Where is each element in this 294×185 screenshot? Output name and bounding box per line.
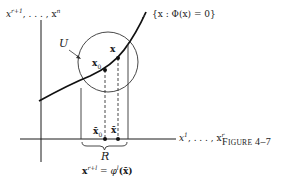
point-x-bar	[116, 137, 120, 141]
axis-ellipsis: , . . . , x	[188, 133, 222, 143]
proj-x0-label: x̄0	[93, 127, 102, 138]
diagram-canvas	[0, 0, 294, 185]
caption-number: 4–7	[255, 136, 271, 147]
neighborhood-label: U	[59, 38, 68, 49]
eq-phi: = φ	[97, 166, 117, 176]
point-x0-label: x0	[92, 59, 101, 70]
horizontal-axis-label: x1, . . . , xr	[179, 132, 224, 143]
point-x	[116, 56, 120, 60]
axis-ellipsis: , . . . , x	[23, 9, 57, 19]
vertical-axis-label: xr+1, . . . , xn	[6, 8, 60, 19]
figure-caption: Figure 4–7	[222, 137, 271, 147]
point-x0	[103, 68, 107, 72]
equation-label: xr+l = φl(x̄)	[82, 165, 133, 176]
point-x0-bar	[103, 137, 107, 141]
surface-label: {x : Φ(x) = 0}	[152, 10, 216, 19]
axis-sup: n	[56, 7, 60, 14]
neighborhood-circle	[78, 32, 138, 92]
region-label: R	[101, 151, 109, 162]
caption-smallcaps: igure	[228, 138, 252, 147]
eq-sup: r+l	[87, 164, 97, 171]
axis-sup: r+1	[11, 7, 23, 14]
proj-sub: 0	[98, 131, 102, 138]
point-x-label: x	[110, 45, 115, 54]
point-sub: 0	[97, 63, 101, 70]
eq-arg: (x̄)	[119, 166, 133, 176]
region-brace	[82, 142, 127, 150]
proj-x-label: x̄	[111, 126, 116, 135]
